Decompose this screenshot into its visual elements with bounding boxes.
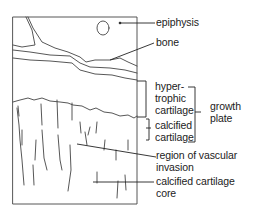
label-vascular-line1: region of vascular <box>156 150 237 161</box>
label-calcified-line1: calcified <box>155 120 192 131</box>
label-epiphysis: epiphysis <box>156 17 199 28</box>
label-hypertrophic-line3: cartilage <box>155 105 194 116</box>
label-core-line1: calcified cartilage <box>156 176 235 187</box>
bracket-calcified <box>146 119 151 140</box>
label-core-line2: core <box>156 188 176 199</box>
leader-vascular <box>77 144 156 157</box>
label-bone: bone <box>156 37 179 48</box>
leader-bone <box>110 43 154 60</box>
label-calcified-line2: cartilage <box>155 132 194 143</box>
bone-outline <box>13 17 137 204</box>
label-vascular-line2: invasion <box>156 162 194 173</box>
label-growth-line1: growth <box>210 101 241 112</box>
label-hypertrophic-line2: trophic <box>155 93 186 104</box>
epiphysis-ossification-center <box>97 21 109 35</box>
label-growth-line2: plate <box>210 113 232 124</box>
bracket-hypertrophic <box>137 81 146 117</box>
label-hypertrophic-line1: hyper- <box>155 81 184 92</box>
